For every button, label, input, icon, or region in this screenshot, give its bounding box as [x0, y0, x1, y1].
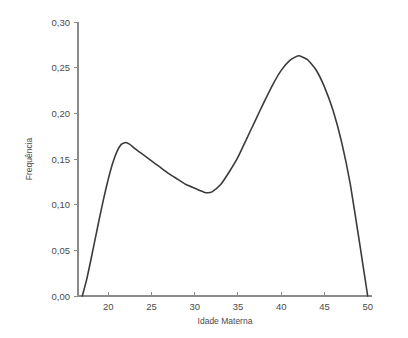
- density-curve: [82, 56, 367, 296]
- x-tick-label: 50: [362, 301, 373, 312]
- chart-plot-area: 0,000,050,100,150,200,250,30 20253035404…: [0, 0, 408, 338]
- x-axis: 20253035404550: [78, 292, 373, 312]
- y-tick-label: 0,10: [52, 199, 71, 210]
- x-axis-title: Idade Materna: [198, 316, 253, 326]
- x-tick-label: 35: [233, 301, 244, 312]
- x-tick-label: 40: [276, 301, 287, 312]
- y-tick-labels: 0,000,050,100,150,200,250,30: [52, 17, 71, 302]
- y-tick-label: 0,30: [52, 17, 71, 28]
- frequency-distribution-chart: 0,000,050,100,150,200,250,30 20253035404…: [0, 0, 408, 338]
- x-tick-label: 20: [103, 301, 114, 312]
- y-tick-label: 0,15: [52, 154, 71, 165]
- y-axis-title: Frequência: [24, 137, 34, 180]
- x-tick-marks: [108, 292, 367, 296]
- x-tick-label: 25: [146, 301, 157, 312]
- y-tick-marks: [74, 22, 78, 296]
- y-tick-label: 0,25: [52, 62, 71, 73]
- y-tick-label: 0,20: [52, 108, 71, 119]
- x-tick-label: 30: [189, 301, 200, 312]
- data-series-group: [82, 56, 367, 296]
- y-tick-label: 0,00: [52, 291, 71, 302]
- x-tick-label: 45: [319, 301, 330, 312]
- x-tick-labels: 20253035404550: [103, 301, 373, 312]
- y-tick-label: 0,05: [52, 245, 71, 256]
- y-axis: 0,000,050,100,150,200,250,30: [52, 17, 79, 302]
